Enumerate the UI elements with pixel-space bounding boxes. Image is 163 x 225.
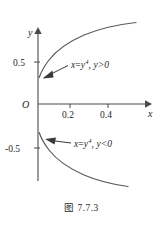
curve-label-lower-condition: , y<0 xyxy=(91,139,112,149)
figure-container: O x y 0.2 0.4 0.5 -0.5 x=y4, y>0 x=y4, y… xyxy=(0,0,163,225)
origin-label: O xyxy=(22,99,29,110)
curve-label-lower: x=y4, y<0 xyxy=(74,139,112,149)
y-tick-label-0.5: 0.5 xyxy=(13,58,25,68)
x-axis-arrowhead xyxy=(145,100,152,108)
x-axis-label: x xyxy=(147,108,153,119)
y-axis-label: y xyxy=(27,27,33,38)
y-tick-label-minus-0.5: -0.5 xyxy=(5,144,20,154)
y-axis-arrowhead xyxy=(34,27,41,34)
figure-caption: 图 7.7.3 xyxy=(0,200,163,214)
curve-label-upper: x=y4, y>0 xyxy=(71,60,109,70)
plot-svg: O x y 0.2 0.4 0.5 -0.5 xyxy=(0,0,163,198)
lower-annotation-leader-line xyxy=(55,141,71,143)
lower-annotation-arrowhead xyxy=(45,138,56,145)
curve-label-upper-condition: , y>0 xyxy=(88,60,109,70)
plot-area: O x y 0.2 0.4 0.5 -0.5 xyxy=(0,0,163,198)
x-tick-label-0.4: 0.4 xyxy=(100,110,112,120)
upper-annotation-arrowhead xyxy=(43,71,54,79)
x-tick-label-0.2: 0.2 xyxy=(62,110,74,120)
